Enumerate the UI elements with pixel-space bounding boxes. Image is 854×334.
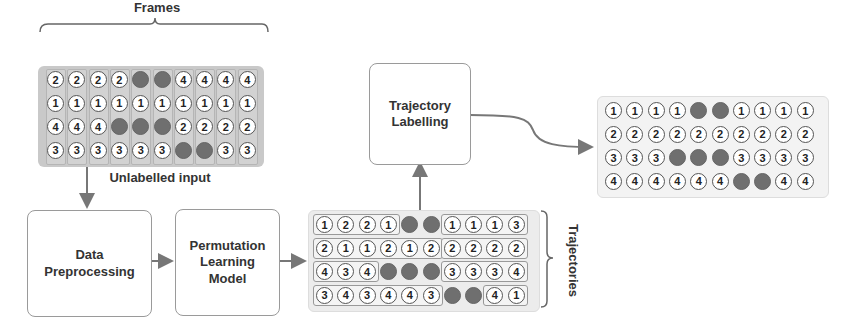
- marker-2: 2: [690, 126, 707, 143]
- trajectory-labelling-label: Trajectory Labelling: [380, 98, 460, 131]
- marker-1: 1: [68, 95, 85, 112]
- marker-1: 1: [175, 95, 192, 112]
- marker-3: 3: [90, 142, 107, 159]
- marker-2: 2: [444, 240, 461, 257]
- marker-2: 2: [465, 240, 482, 257]
- marker-4: 4: [47, 118, 64, 135]
- occluded-marker: [401, 216, 418, 233]
- marker-2: 2: [733, 126, 750, 143]
- marker-1: 1: [154, 95, 171, 112]
- marker-2: 2: [359, 216, 376, 233]
- data-preprocessing-box: Data Preprocessing: [27, 210, 152, 317]
- marker-4: 4: [797, 173, 814, 190]
- frames-label: Frames: [112, 0, 202, 15]
- occluded-marker: [712, 149, 729, 166]
- marker-3: 3: [239, 142, 256, 159]
- marker-4: 4: [605, 173, 622, 190]
- marker-3: 3: [465, 263, 482, 280]
- marker-1: 1: [754, 102, 771, 119]
- marker-4: 4: [648, 173, 665, 190]
- occluded-marker: [754, 173, 771, 190]
- marker-1: 1: [465, 216, 482, 233]
- occluded-marker: [423, 216, 440, 233]
- marker-3: 3: [733, 149, 750, 166]
- marker-4: 4: [401, 287, 418, 304]
- marker-4: 4: [669, 173, 686, 190]
- occluded-marker: [401, 263, 418, 280]
- marker-1: 1: [669, 102, 686, 119]
- marker-1: 1: [401, 240, 418, 257]
- occluded-marker: [175, 142, 192, 159]
- occluded-marker: [154, 71, 171, 88]
- marker-2: 2: [605, 126, 622, 143]
- marker-2: 2: [626, 126, 643, 143]
- marker-4: 4: [775, 173, 792, 190]
- marker-4: 4: [175, 71, 192, 88]
- marker-3: 3: [797, 149, 814, 166]
- marker-3: 3: [605, 149, 622, 166]
- marker-2: 2: [47, 71, 64, 88]
- marker-2: 2: [669, 126, 686, 143]
- marker-2: 2: [508, 240, 525, 257]
- marker-1: 1: [196, 95, 213, 112]
- marker-2: 2: [316, 240, 333, 257]
- marker-2: 2: [712, 126, 729, 143]
- marker-1: 1: [111, 95, 128, 112]
- occluded-marker: [733, 173, 750, 190]
- occluded-marker: [690, 149, 707, 166]
- marker-4: 4: [380, 287, 397, 304]
- marker-1: 1: [508, 287, 525, 304]
- marker-1: 1: [239, 95, 256, 112]
- marker-2: 2: [648, 126, 665, 143]
- marker-2: 2: [90, 71, 107, 88]
- marker-1: 1: [626, 102, 643, 119]
- marker-2: 2: [754, 126, 771, 143]
- data-preprocessing-label: Data Preprocessing: [40, 247, 140, 280]
- marker-3: 3: [68, 142, 85, 159]
- occluded-marker: [669, 149, 686, 166]
- marker-4: 4: [626, 173, 643, 190]
- occluded-marker: [111, 118, 128, 135]
- occluded-marker: [154, 118, 171, 135]
- marker-4: 4: [508, 263, 525, 280]
- marker-4: 4: [486, 287, 503, 304]
- marker-4: 4: [90, 118, 107, 135]
- marker-2: 2: [196, 118, 213, 135]
- unlabelled-input-grid: 222244441111111111444222233333333: [38, 66, 264, 167]
- marker-2: 2: [380, 240, 397, 257]
- occluded-marker: [712, 102, 729, 119]
- marker-1: 1: [90, 95, 107, 112]
- occluded-marker: [423, 263, 440, 280]
- marker-3: 3: [754, 149, 771, 166]
- marker-1: 1: [47, 95, 64, 112]
- marker-3: 3: [316, 287, 333, 304]
- marker-1: 1: [797, 102, 814, 119]
- trajectories-panel: 122111132112122222434333434344341: [308, 210, 540, 312]
- marker-1: 1: [217, 95, 234, 112]
- marker-4: 4: [690, 173, 707, 190]
- marker-4: 4: [316, 263, 333, 280]
- marker-1: 1: [359, 240, 376, 257]
- permutation-learning-model-box: Permutation Learning Model: [175, 209, 280, 316]
- occluded-marker: [690, 102, 707, 119]
- marker-3: 3: [508, 216, 525, 233]
- marker-1: 1: [444, 216, 461, 233]
- marker-4: 4: [359, 263, 376, 280]
- marker-3: 3: [359, 287, 376, 304]
- marker-3: 3: [444, 263, 461, 280]
- labelled-output-panel: 111111112222222222333333344444444: [597, 96, 829, 198]
- marker-3: 3: [154, 142, 171, 159]
- marker-1: 1: [132, 95, 149, 112]
- marker-1: 1: [733, 102, 750, 119]
- occluded-marker: [444, 287, 461, 304]
- marker-1: 1: [605, 102, 622, 119]
- marker-2: 2: [486, 240, 503, 257]
- frames-brace: [40, 18, 268, 32]
- marker-3: 3: [775, 149, 792, 166]
- trajectory-labelling-box: Trajectory Labelling: [369, 63, 471, 165]
- marker-2: 2: [239, 118, 256, 135]
- marker-1: 1: [337, 240, 354, 257]
- marker-1: 1: [775, 102, 792, 119]
- unlabelled-input-label: Unlabelled input: [85, 170, 235, 185]
- marker-4: 4: [239, 71, 256, 88]
